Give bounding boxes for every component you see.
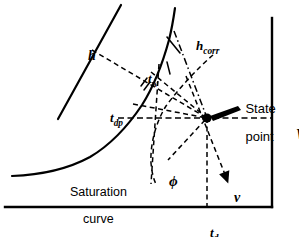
humidity-ratio-label: W (281, 110, 299, 159)
relative-humidity-leader-line (168, 120, 205, 160)
wet-bulb-subscript: w (152, 79, 158, 89)
specific-volume-label: v (220, 175, 240, 220)
specific-volume-line (186, 76, 226, 177)
corrected-enthalpy-label: hcorr (183, 25, 219, 70)
dry-bulb-subscript: d (214, 233, 219, 237)
state-point-label: State point (231, 88, 276, 158)
saturation-curve-label: Saturation curve (56, 172, 127, 237)
wet-bulb-label: tw (135, 58, 158, 103)
state-point-marker (202, 113, 211, 122)
psychrometric-chart-figure: h hcorr tw tdp td ϕ v W State point Satu… (0, 0, 299, 237)
enthalpy-label: h (74, 33, 96, 78)
dry-bulb-label: td (197, 212, 218, 237)
dew-point-label: tdp (97, 97, 123, 142)
dew-point-subscript: dp (114, 118, 123, 128)
corrected-enthalpy-tick (167, 37, 180, 53)
relative-humidity-label: ϕ (154, 157, 178, 206)
corrected-enthalpy-subscript: corr (203, 46, 219, 56)
